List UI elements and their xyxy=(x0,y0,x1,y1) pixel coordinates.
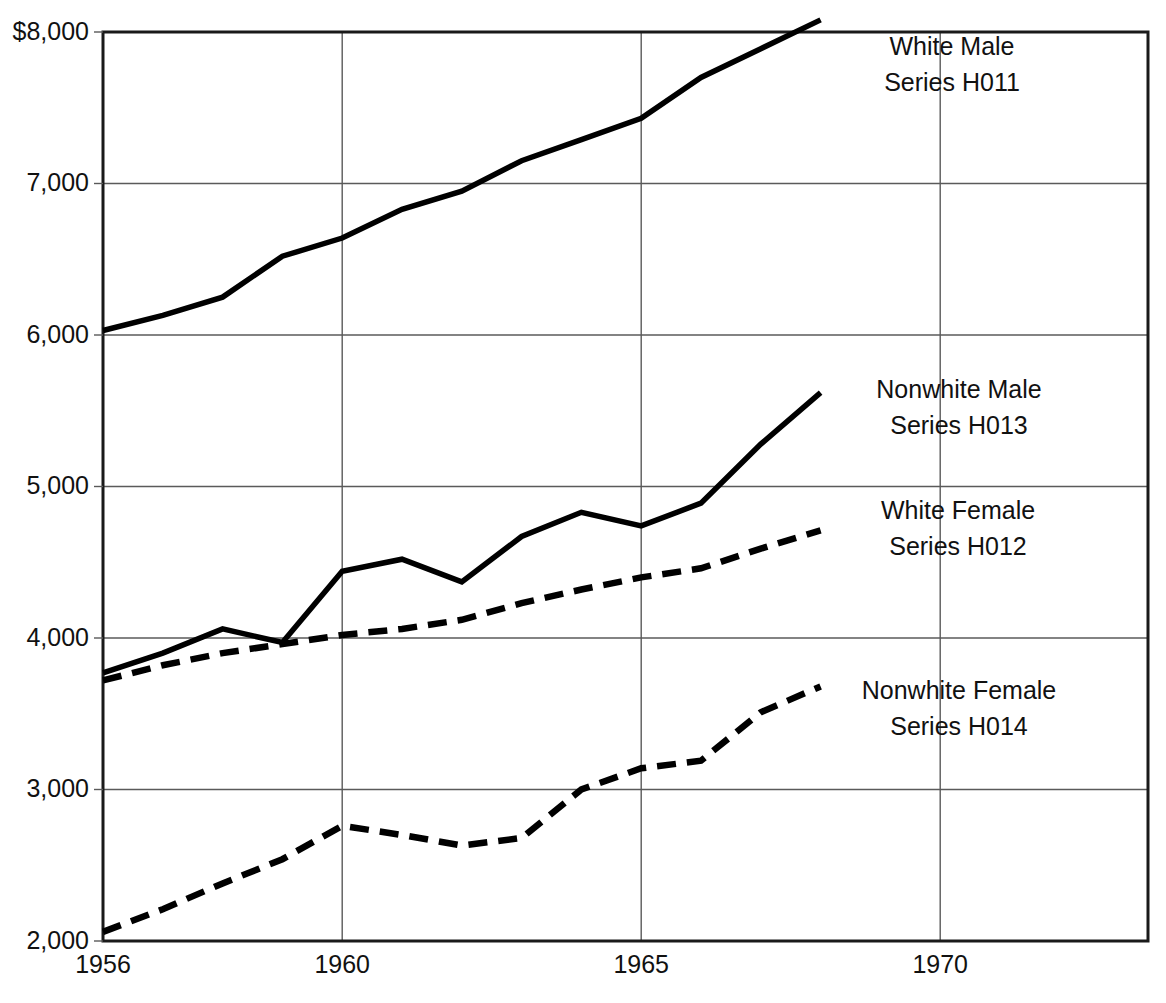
chart-container: $8,0007,0006,0005,0004,0003,0002,000 195… xyxy=(0,0,1166,1003)
series-label-nonwhite-female: Nonwhite Female Series H014 xyxy=(862,676,1057,740)
series-line-nonwhite-female xyxy=(103,686,821,931)
series-label-nonwhite-female-line1: Nonwhite Female xyxy=(862,676,1057,704)
x-axis-tick-label: 1970 xyxy=(912,950,968,978)
series-label-nonwhite-male-line2: Series H013 xyxy=(890,411,1028,439)
y-axis-tick-label: 4,000 xyxy=(26,623,89,651)
series-label-white-female: White Female Series H012 xyxy=(881,496,1035,560)
series-line-white-male xyxy=(103,20,821,331)
y-axis-tick-label: 5,000 xyxy=(26,471,89,499)
y-axis-tick-label: 7,000 xyxy=(26,168,89,196)
series-label-white-male: White Male Series H011 xyxy=(884,32,1020,96)
x-axis-tick-labels: 1956196019651970 xyxy=(75,950,968,978)
y-axis-tick-label: 3,000 xyxy=(26,774,89,802)
series-label-nonwhite-female-line2: Series H014 xyxy=(890,712,1028,740)
series-label-nonwhite-male: Nonwhite Male Series H013 xyxy=(876,375,1041,439)
x-axis-tick-label: 1960 xyxy=(314,950,370,978)
series-label-white-female-line1: White Female xyxy=(881,496,1035,524)
x-axis-tick-label: 1965 xyxy=(613,950,669,978)
y-axis-tick-label: $8,000 xyxy=(13,17,89,45)
series-line-white-female xyxy=(103,530,821,680)
x-axis-tick-label: 1956 xyxy=(75,950,131,978)
series-lines-group xyxy=(103,20,821,932)
series-line-nonwhite-male xyxy=(103,393,821,673)
series-label-white-male-line2: Series H011 xyxy=(884,68,1020,96)
series-label-white-male-line1: White Male xyxy=(889,32,1014,60)
line-chart-plot: $8,0007,0006,0005,0004,0003,0002,000 195… xyxy=(0,0,1166,1003)
gridlines-group xyxy=(103,32,1148,941)
series-label-nonwhite-male-line1: Nonwhite Male xyxy=(876,375,1041,403)
series-label-white-female-line2: Series H012 xyxy=(889,532,1027,560)
y-axis-tick-labels: $8,0007,0006,0005,0004,0003,0002,000 xyxy=(13,17,103,954)
y-axis-tick-label: 6,000 xyxy=(26,320,89,348)
